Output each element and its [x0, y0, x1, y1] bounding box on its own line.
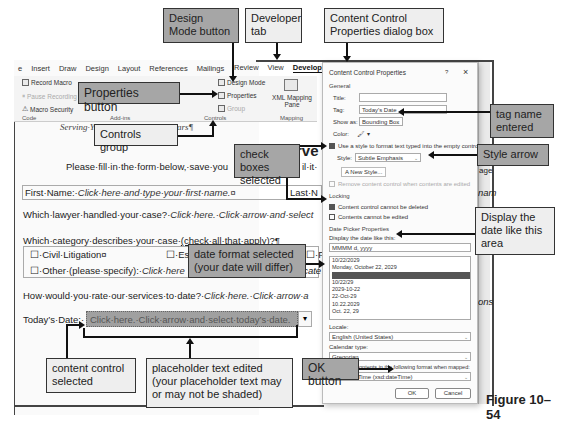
design-mode-button[interactable]: Design Mode — [218, 79, 265, 86]
rate-dropdown-field[interactable]: Click·here.·Click·arrow·a — [204, 290, 309, 301]
tab-layout[interactable]: Layout — [118, 64, 141, 73]
arrow-head — [79, 321, 85, 329]
callout-arrow — [189, 344, 191, 359]
arrow-head — [396, 230, 402, 238]
addins-group-label: Add-ins — [110, 115, 130, 121]
callout-arrow — [66, 324, 80, 326]
macro-security-button[interactable]: ⚠Macro Security — [22, 105, 73, 113]
tab-insert[interactable]: Insert — [31, 64, 50, 73]
date-dropdown-button[interactable]: ▾ — [298, 311, 312, 327]
tab-view[interactable]: View — [268, 63, 284, 73]
design-mode-icon — [218, 79, 225, 86]
cannot-delete-checkbox[interactable]: Content control cannot be deleted — [329, 204, 428, 210]
close-button[interactable]: × — [463, 67, 468, 77]
properties-button[interactable]: Properties — [218, 92, 257, 99]
group-button[interactable]: Group — [218, 105, 245, 112]
callout-arrow — [404, 111, 490, 113]
date-picker-section-label: Date Picker Properties — [329, 226, 389, 232]
new-style-icon: A — [345, 169, 349, 175]
tag-label: Tag: — [333, 107, 344, 113]
cannot-edit-checkbox[interactable]: Contents cannot be edited — [329, 214, 408, 220]
checkbox-estate[interactable]: ☐·Es — [166, 249, 189, 260]
display-date-input[interactable]: MMMM d, yyyy — [329, 243, 471, 252]
checkbox-civil-litigation[interactable]: ☐·Civil·Litigation¤ — [30, 249, 107, 260]
checkbox-checked-icon — [329, 204, 335, 210]
pause-recording-button[interactable]: ⏸Pause Recording — [22, 92, 77, 100]
help-button[interactable]: ? — [445, 69, 448, 75]
first-name-field[interactable]: Click·here·and·type·your·first·name.¤ — [78, 187, 236, 198]
warning-icon: ⚠ — [22, 105, 28, 113]
callout-arrow — [402, 233, 475, 235]
tab-references[interactable]: References — [149, 64, 187, 73]
date-format-option-selected[interactable]: October 22, 2029 — [332, 272, 470, 279]
first-name-label: First·Name:·Click·here·and·type·your·fir… — [25, 187, 236, 198]
date-content-control[interactable]: Click·here.·Click·arrow·and·select·today… — [86, 311, 298, 327]
remove-control-checkbox[interactable]: Remove content control when contents are… — [329, 181, 470, 187]
title-label: Title: — [333, 95, 346, 101]
date-format-list[interactable]: 10/22/2029 Monday, October 22, 2029 Octo… — [329, 256, 471, 320]
checkbox-unchecked-icon — [329, 181, 335, 187]
callout-tag-name-entered: tag name entered — [490, 104, 554, 138]
display-date-label: Display the date like this: — [329, 235, 395, 241]
tab-draw[interactable]: Draw — [59, 64, 77, 73]
bracket-right — [296, 325, 298, 337]
properties-icon — [218, 92, 225, 99]
lawyer-tail: age — [479, 166, 492, 175]
color-picker-button[interactable]: 🖌 ▾ — [357, 130, 370, 137]
callout-arrow — [306, 263, 320, 265]
chevron-down-icon: ⌄ — [464, 333, 468, 341]
locale-select[interactable]: English (United States)⌄ — [329, 332, 471, 341]
arrow-head — [212, 90, 218, 98]
arrow-head — [186, 338, 194, 344]
xml-mapping-pane-button[interactable]: XML Mapping Pane — [270, 94, 314, 108]
last-name-tail: nam — [478, 187, 496, 198]
callout-design-mode-button: Design Mode button — [163, 8, 239, 43]
cancel-button[interactable]: Cancel — [435, 388, 471, 399]
checkbox-unchecked-icon — [329, 214, 335, 220]
tab-mailings[interactable]: Mailings — [197, 64, 225, 73]
show-as-select[interactable]: Bounding Box⌄ — [359, 117, 403, 126]
calendar-type-label: Calendar type: — [329, 344, 368, 350]
arrow-head — [273, 54, 281, 60]
pause-icon: ⏸ — [22, 92, 25, 100]
callout-developer-tab: Developer tab — [245, 8, 302, 43]
lawyer-dropdown-field[interactable]: Click·here.·Click·arrow·and·select — [170, 209, 313, 220]
record-macro-button[interactable]: Record Macro — [22, 79, 72, 86]
checkbox-other[interactable]: ☐·Other·(please·specify):·Click·here — [30, 265, 185, 276]
date-format-option[interactable]: 10/22/29 — [332, 279, 470, 286]
date-format-option[interactable]: 22-Oct-29 — [332, 293, 470, 300]
new-style-button[interactable]: A New Style... — [341, 167, 386, 177]
date-format-option[interactable]: Monday, October 22, 2029 — [332, 264, 470, 271]
arrow-head — [319, 260, 325, 268]
chevron-down-icon: ⌄ — [414, 154, 418, 162]
ok-button[interactable]: OK — [395, 388, 429, 399]
style-select[interactable]: Subtle Emphasis⌄ — [355, 153, 421, 162]
callout-arrow — [212, 126, 214, 137]
arrow-head — [388, 365, 394, 373]
callout-check-boxes-selected: check boxes selected — [234, 144, 300, 178]
callout-arrow — [286, 178, 288, 200]
title-input[interactable] — [359, 93, 447, 102]
arrow-head — [321, 142, 327, 150]
callout-date-format-selected: date format selected (your date will dif… — [188, 244, 306, 278]
code-group-label: Code — [22, 115, 36, 121]
callout-arrow — [359, 368, 389, 370]
tab-design[interactable]: Design — [85, 64, 108, 73]
chevron-down-icon: ⌄ — [464, 353, 468, 361]
checkbox-checked-icon — [329, 143, 335, 149]
date-format-option[interactable]: Oct. 22, 29 — [332, 308, 470, 315]
ribbon-tabs: e Insert Draw Design Layout References M… — [14, 60, 256, 76]
date-format-option[interactable]: 10/22/2029 — [332, 257, 470, 264]
date-format-option[interactable]: 10.22.2029 — [332, 301, 470, 308]
date-format-option[interactable]: 2029-10-22 — [332, 286, 470, 293]
callout-arrow — [300, 145, 322, 147]
chevron-down-icon: ⌄ — [396, 118, 400, 126]
tab-file[interactable]: e — [18, 64, 22, 73]
tab-review[interactable]: Review — [234, 63, 259, 73]
callout-style-arrow: Style arrow — [477, 144, 549, 166]
callout-arrow — [180, 93, 213, 95]
arrow-head — [209, 120, 217, 126]
general-section-label: General — [329, 83, 350, 89]
use-style-checkbox[interactable]: Use a style to format text typed into th… — [329, 143, 480, 149]
callout-controls-group: Controls group — [94, 124, 178, 146]
